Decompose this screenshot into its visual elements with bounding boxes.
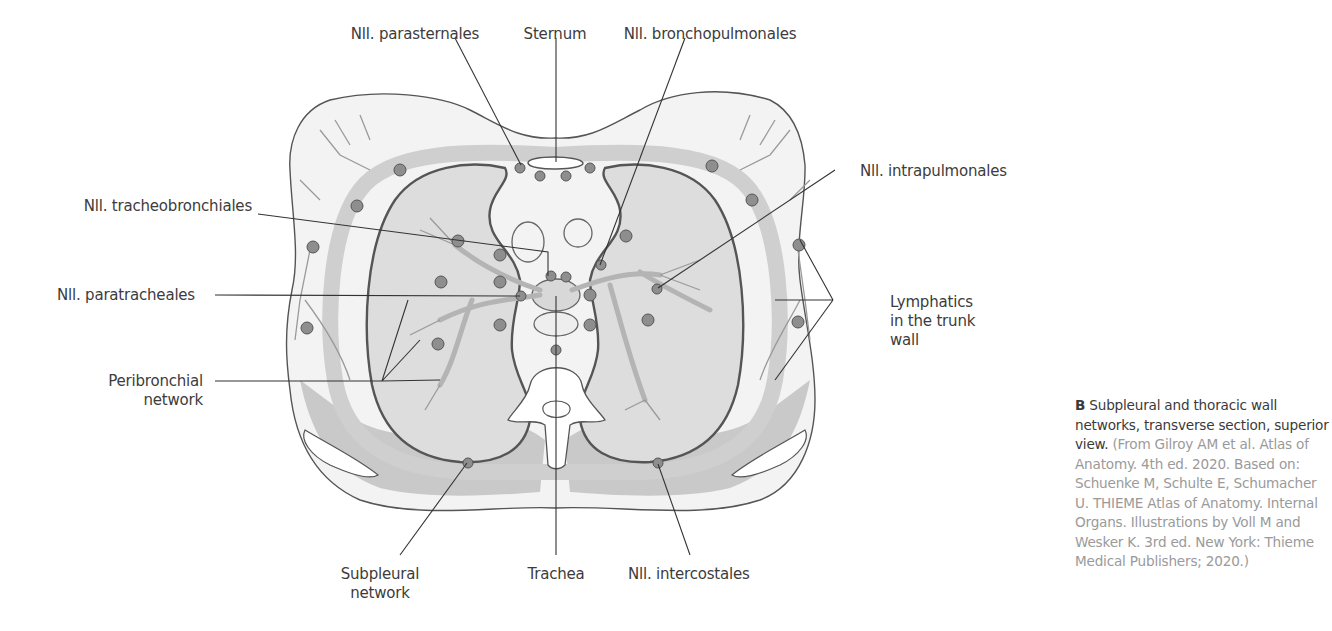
label-lymphatics-line3: wall — [890, 331, 975, 350]
label-nll-intercostales: Nll. intercostales — [628, 565, 750, 584]
label-subpleural-line1: Subpleural — [320, 565, 440, 584]
figure-caption: B Subpleural and thoracic wall networks,… — [1075, 396, 1332, 572]
label-subpleural-line2: network — [320, 584, 440, 603]
label-sternum: Sternum — [505, 25, 605, 44]
label-nll-parasternales: Nll. parasternales — [335, 25, 495, 44]
label-lymphatics-line1: Lymphatics — [890, 293, 975, 312]
label-peribronchial-line1: Peribronchial — [75, 372, 203, 391]
label-nll-bronchopulmonales: Nll. bronchopulmonales — [615, 25, 805, 44]
label-nll-intrapulmonales: Nll. intrapulmonales — [860, 162, 1007, 181]
label-peribronchial-network: Peribronchial network — [75, 372, 203, 410]
label-lymphatics-line2: in the trunk — [890, 312, 975, 331]
caption-source: (From Gilroy AM et al. Atlas of Anatomy.… — [1075, 436, 1318, 569]
label-trachea: Trachea — [506, 565, 606, 584]
caption-figure-letter: B — [1075, 397, 1085, 413]
label-nll-tracheobronchiales: Nll. tracheobronchiales — [0, 197, 252, 216]
label-nll-paratracheales: Nll. paratracheales — [0, 286, 195, 305]
label-lymphatics-trunk-wall: Lymphatics in the trunk wall — [890, 293, 975, 350]
label-subpleural-network: Subpleural network — [320, 565, 440, 603]
label-peribronchial-line2: network — [75, 391, 203, 410]
